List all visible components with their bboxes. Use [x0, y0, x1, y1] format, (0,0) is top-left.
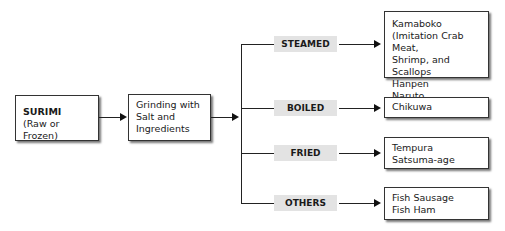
- branch-line: [241, 153, 274, 154]
- arrow-icon: [374, 199, 381, 207]
- product-item: Satsuma-age: [392, 154, 481, 166]
- surimi-subtitle: (Raw or Frozen): [23, 118, 91, 142]
- branch-line: [339, 153, 376, 154]
- branch-line: [241, 108, 274, 109]
- product-item: Fish Sausage: [392, 192, 481, 204]
- product-item: Hanpen: [392, 78, 481, 90]
- arrow-icon: [374, 40, 381, 48]
- branch-label-boiled: BOILED: [274, 100, 337, 116]
- arrow-icon: [120, 113, 127, 121]
- branch-line: [339, 108, 376, 109]
- branch-line: [339, 44, 376, 45]
- product-item: (Imitation Crab Meat,: [392, 30, 481, 54]
- grinding-box: Grinding with Salt and Ingredients: [128, 94, 211, 141]
- product-item: Fish Ham: [392, 204, 481, 216]
- surimi-title: SURIMI: [23, 106, 91, 118]
- branch-line: [339, 203, 376, 204]
- product-item: Tempura: [392, 142, 481, 154]
- process-line: Grinding with: [136, 99, 203, 111]
- product-item: Chikuwa: [392, 101, 481, 113]
- surimi-box: SURIMI (Raw or Frozen): [15, 95, 99, 141]
- product-item: Shrimp, and Scallops: [392, 54, 481, 78]
- branch-line: [241, 203, 274, 204]
- product-item: Kamaboko: [392, 18, 481, 30]
- trunk-line: [241, 44, 242, 204]
- branch-label-steamed: STEAMED: [274, 36, 337, 52]
- connector-line: [211, 117, 234, 118]
- branch-line: [241, 44, 274, 45]
- arrow-icon: [374, 149, 381, 157]
- process-line: Ingredients: [136, 123, 203, 135]
- product-box-fried: Tempura Satsuma-age: [384, 137, 489, 169]
- process-line: Salt and: [136, 111, 203, 123]
- product-box-others: Fish Sausage Fish Ham: [384, 187, 489, 220]
- branch-label-others: OTHERS: [274, 195, 337, 211]
- product-box-steamed: Kamaboko (Imitation Crab Meat, Shrimp, a…: [384, 11, 489, 78]
- arrow-icon: [374, 104, 381, 112]
- connector-line: [99, 117, 120, 118]
- branch-label-fried: FRIED: [274, 145, 337, 161]
- product-box-boiled: Chikuwa: [384, 97, 489, 118]
- arrow-icon: [232, 113, 239, 121]
